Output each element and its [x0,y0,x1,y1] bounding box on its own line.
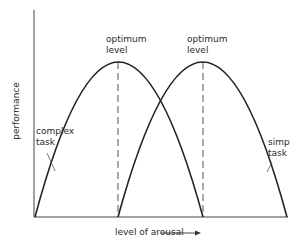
leader-simple [267,162,272,172]
optimum-text: optimum [106,34,147,45]
y-axis-label: performance [11,82,21,140]
arrow-right-icon [195,231,201,236]
simp-text: simp [268,137,290,148]
optimum-text: optimum [187,34,228,45]
optimum-label-complex: optimum level [106,34,147,56]
task-text: task [268,148,290,159]
x-axis-label: level of arousal [115,227,184,238]
task-text: task [36,137,74,148]
complex-text: complex [36,126,74,137]
simple-task-label: simp task [268,137,290,159]
level-text: level [187,45,228,56]
complex-task-label: complex task [36,126,74,148]
level-text: level [106,45,147,56]
optimum-label-simple: optimum level [187,34,228,56]
